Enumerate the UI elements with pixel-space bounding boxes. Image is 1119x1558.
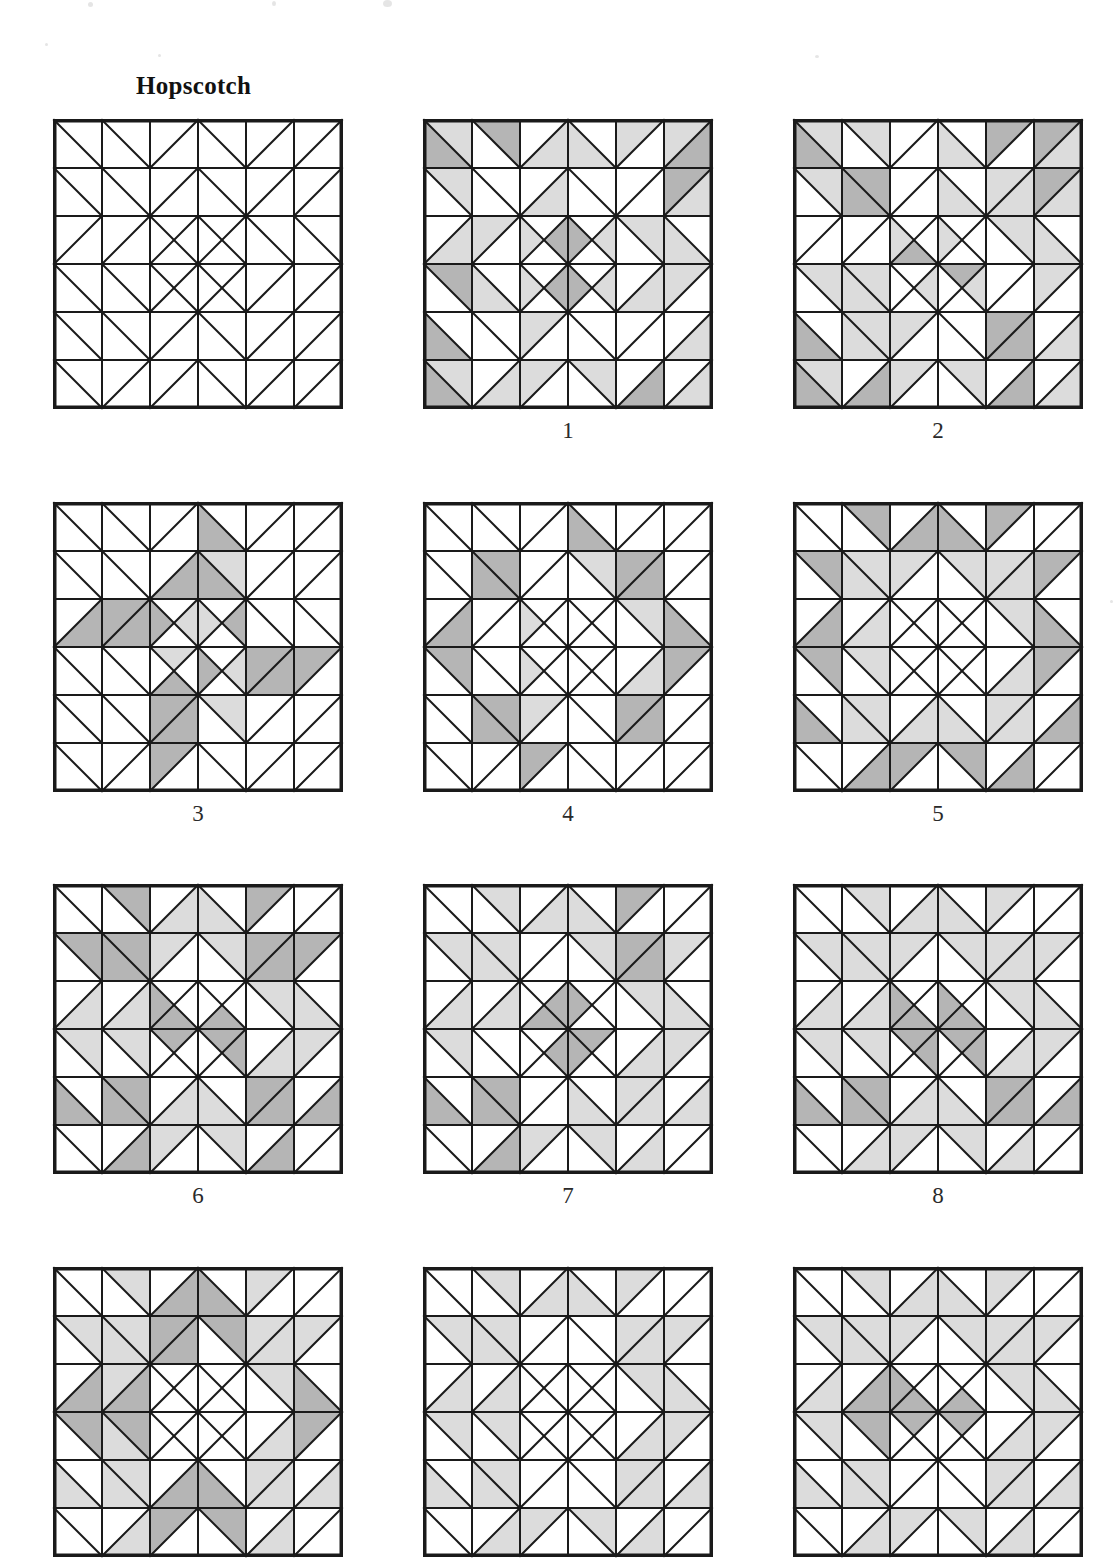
scan-speck [815,55,819,58]
quilt-block-drawing [424,1266,712,1558]
scan-speck [1110,600,1113,603]
scan-speck [272,1,276,6]
hopscotch-colorway-1: 1 [424,118,712,410]
block-number-label: 6 [54,1183,342,1209]
quilt-block-drawing [794,883,1082,1175]
scan-speck [158,54,161,57]
block-number-label: 1 [424,418,712,444]
hopscotch-colorway-11 [794,1266,1082,1558]
hopscotch-colorway-6: 6 [54,883,342,1175]
quilt-block-drawing [794,501,1082,793]
block-number-label: 5 [794,801,1082,827]
hopscotch-colorway-10 [424,1266,712,1558]
hopscotch-colorway-4: 4 [424,501,712,793]
quilt-block-drawing [54,883,342,1175]
quilt-block-drawing [424,118,712,410]
hopscotch-colorway-5: 5 [794,501,1082,793]
hopscotch-line-drawing [54,118,342,410]
quilt-block-drawing [424,501,712,793]
block-number-label: 4 [424,801,712,827]
block-number-label: 8 [794,1183,1082,1209]
scan-speck [88,2,93,7]
block-number-label: 3 [54,801,342,827]
quilt-block-drawing [794,118,1082,410]
hopscotch-colorway-2: 2 [794,118,1082,410]
hopscotch-colorway-7: 7 [424,883,712,1175]
page-title: Hopscotch [136,72,251,100]
quilt-block-drawing [54,118,342,410]
quilt-block-drawing [794,1266,1082,1558]
quilt-block-drawing [54,501,342,793]
scan-speck [383,0,392,7]
hopscotch-colorway-9 [54,1266,342,1558]
hopscotch-colorway-3: 3 [54,501,342,793]
quilt-block-drawing [54,1266,342,1558]
hopscotch-colorway-8: 8 [794,883,1082,1175]
block-number-label: 7 [424,1183,712,1209]
block-number-label: 2 [794,418,1082,444]
scan-speck [45,43,48,46]
quilt-block-drawing [424,883,712,1175]
